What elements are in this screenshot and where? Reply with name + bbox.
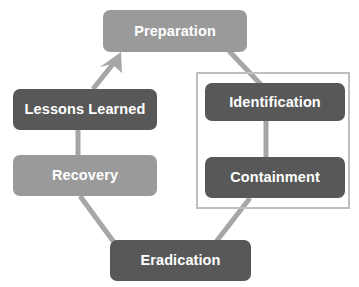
node-recovery[interactable]: Recovery: [13, 155, 157, 196]
node-containment[interactable]: Containment: [205, 157, 345, 198]
node-label-eradication: Eradication: [140, 253, 220, 268]
node-label-containment: Containment: [230, 170, 320, 185]
incident-response-lifecycle-diagram: Preparation Lessons Learned Recovery Ide…: [0, 0, 359, 287]
node-label-recovery: Recovery: [52, 168, 118, 183]
node-identification[interactable]: Identification: [205, 83, 345, 121]
node-label-lessons-learned: Lessons Learned: [25, 102, 146, 117]
node-label-identification: Identification: [229, 95, 321, 110]
connector-eradication-to-recovery: [80, 196, 116, 245]
node-preparation[interactable]: Preparation: [103, 10, 247, 52]
node-label-preparation: Preparation: [134, 24, 216, 39]
node-lessons-learned[interactable]: Lessons Learned: [13, 89, 157, 130]
node-eradication[interactable]: Eradication: [110, 240, 251, 281]
